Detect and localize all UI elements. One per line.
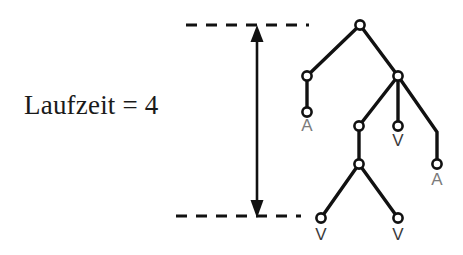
- leaf-label-v-bottom-left: V: [315, 225, 327, 244]
- node-left-branch: [302, 71, 311, 80]
- arrow-head-up-icon: [251, 25, 264, 42]
- node-lower-branch: [354, 159, 363, 168]
- tree-edges: [307, 25, 437, 218]
- leaf-label-a-right: A: [431, 170, 443, 189]
- node-right-branch: [393, 71, 402, 80]
- node-mid-branch: [354, 121, 363, 130]
- depth-measurement-arrow: [251, 25, 264, 218]
- edge-lower-to-leaf-v-left: [321, 164, 359, 218]
- edge-root-to-right: [360, 25, 398, 76]
- node-root: [355, 20, 364, 29]
- diagram-canvas: A V A V V: [0, 0, 463, 255]
- node-leaf-a-right: [432, 159, 441, 168]
- leaf-label-v-mid: V: [392, 131, 404, 150]
- edge-right-to-mid: [359, 76, 398, 126]
- node-leaf-v-bottom-right: [393, 213, 402, 222]
- leaf-label-a-left: A: [301, 116, 313, 135]
- node-leaf-v-mid: [393, 121, 402, 130]
- caption-label: Laufzeit = 4: [24, 90, 194, 121]
- edge-root-to-left: [307, 25, 360, 76]
- leaf-label-v-bottom-right: V: [392, 225, 404, 244]
- node-leaf-v-bottom-left: [316, 213, 325, 222]
- runtime-tree-diagram: Laufzeit = 4: [0, 0, 463, 255]
- edge-lower-to-leaf-v-right: [359, 164, 398, 218]
- tree-nodes: [302, 20, 441, 222]
- edge-right-to-leaf-a: [398, 76, 437, 164]
